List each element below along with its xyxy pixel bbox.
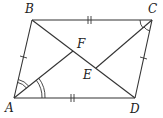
parallelogram-diagram: A B C D F E [0,0,163,118]
label-d: D [129,102,140,116]
angle-arc-a-upper-1 [18,82,27,88]
label-b: B [24,2,34,16]
label-a: A [4,101,14,115]
label-c: C [148,2,157,16]
angle-arc-a-lower-1 [36,80,42,98]
label-f: F [76,37,86,51]
segment-bd [32,20,135,98]
angle-arc-c-lower [144,27,150,31]
label-e: E [82,68,92,82]
angle-arc-c-upper [140,20,143,28]
